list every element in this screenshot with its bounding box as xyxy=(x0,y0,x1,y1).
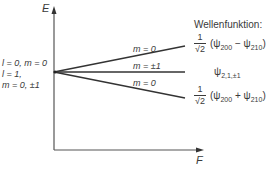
wf3-sub1: 200 xyxy=(220,96,232,103)
y-axis-label: E xyxy=(42,3,49,13)
wf2-expression: ψ2,1,±1 xyxy=(214,66,241,79)
wf1-num: 1 xyxy=(196,33,203,42)
left-label-line1: l = 0, m = 0 xyxy=(2,58,47,68)
wf1-op: − ψ xyxy=(232,38,251,49)
y-axis-arrow-icon xyxy=(52,6,57,14)
wf3-prefactor: 1 √2 xyxy=(194,85,206,106)
wf3-num: 1 xyxy=(196,85,203,94)
level-line-up xyxy=(54,46,185,72)
wf1-sub2: 210 xyxy=(251,44,263,51)
x-axis-arrow-icon xyxy=(196,148,204,153)
wf3-sub2: 210 xyxy=(251,96,263,103)
wf1-den: √2 xyxy=(195,45,205,54)
wf3-expression: (ψ200 + ψ210) xyxy=(210,90,266,103)
wf1-close: ) xyxy=(262,38,265,49)
level-line-down xyxy=(54,72,185,98)
wf1-expression: (ψ200 − ψ210) xyxy=(210,38,266,51)
left-label-line2: l = 1, xyxy=(2,69,22,79)
line-label-flat: m = ±1 xyxy=(133,61,161,71)
wf3-close: ) xyxy=(262,90,265,101)
wf1-prefactor: 1 √2 xyxy=(194,33,206,54)
wf3-den: √2 xyxy=(195,97,205,106)
line-label-up: m = 0 xyxy=(133,44,156,54)
line-label-down: m = 0 xyxy=(133,78,156,88)
wf2-sub: 2,1,±1 xyxy=(221,72,240,79)
wf3-op: + ψ xyxy=(232,90,251,101)
left-label-line3: m = 0, ±1 xyxy=(2,80,40,90)
wf1-open: (ψ xyxy=(210,38,220,49)
x-axis-label: F xyxy=(196,155,203,165)
stark-effect-diagram: E F l = 0, m = 0 l = 1, m = 0, ±1 m = 0 … xyxy=(0,0,274,171)
wf3-open: (ψ xyxy=(210,90,220,101)
wf1-sub1: 200 xyxy=(220,44,232,51)
origin-point xyxy=(53,70,56,73)
wavefunction-title: Wellenfunktion: xyxy=(194,20,262,30)
